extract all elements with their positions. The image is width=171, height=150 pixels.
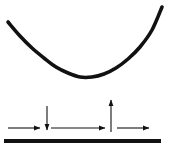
diagram-canvas — [0, 0, 171, 150]
figure-container — [0, 0, 171, 150]
